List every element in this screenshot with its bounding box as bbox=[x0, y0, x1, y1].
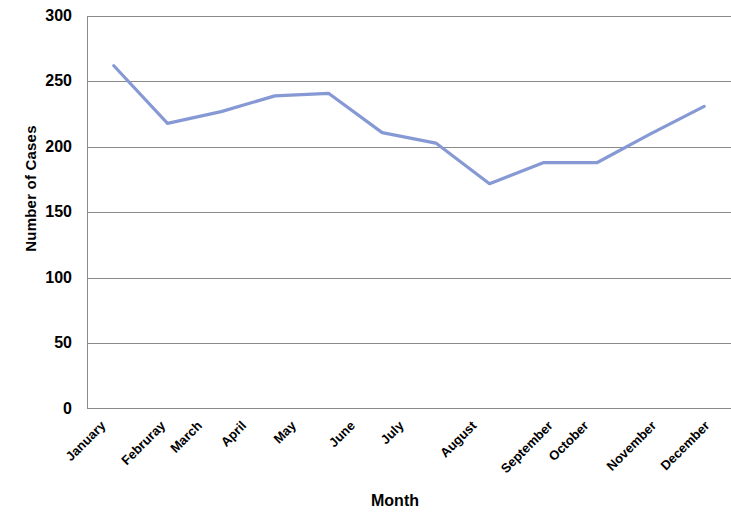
x-axis-title: Month bbox=[300, 492, 490, 510]
x-tick-label-may: May bbox=[270, 418, 298, 446]
x-tick-label-july: July bbox=[378, 418, 407, 447]
x-tick-label-april: April bbox=[218, 418, 250, 450]
x-tick-label-december: December bbox=[657, 418, 712, 473]
x-tick-label-februray: Februray bbox=[118, 418, 168, 468]
line-chart: Number of Cases 300 250 200 150 100 50 0 bbox=[0, 0, 731, 525]
x-tick-label-june: June bbox=[326, 418, 358, 450]
x-axis-tick-labels: January Februray March April May June Ju… bbox=[0, 0, 731, 525]
x-tick-label-january: January bbox=[63, 418, 109, 464]
x-tick-label-september: September bbox=[498, 418, 556, 476]
x-tick-label-august: August bbox=[437, 418, 479, 460]
x-tick-label-november: November bbox=[604, 418, 660, 474]
x-tick-label-march: March bbox=[167, 418, 205, 456]
